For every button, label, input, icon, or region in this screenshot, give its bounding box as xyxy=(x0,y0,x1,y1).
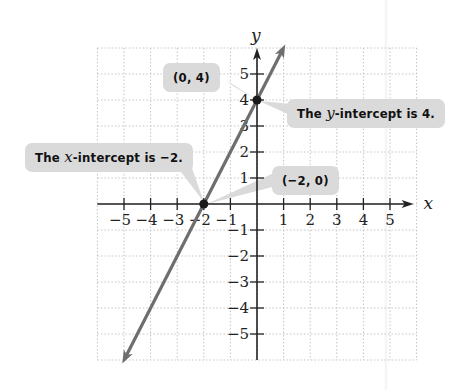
graph-figure: xy−5−4−3−2−11234554321−1−2−3−4−5 (0, 4) … xyxy=(0,0,470,390)
x-axis-label: x xyxy=(424,193,434,213)
y-tick-label: −4 xyxy=(227,299,249,317)
y-intercept-point xyxy=(253,96,262,105)
callout-y-point: (0, 4) xyxy=(163,63,220,92)
x-tick-label: 3 xyxy=(332,211,342,229)
y-tick-label: 5 xyxy=(239,65,249,83)
variable-y: y xyxy=(326,104,335,122)
y-tick-label: −3 xyxy=(227,273,249,291)
y-axis-label: y xyxy=(250,25,261,45)
y-tick-label: 4 xyxy=(239,91,249,109)
x-tick-label: 4 xyxy=(359,211,369,229)
x-tick-label: −4 xyxy=(136,211,158,229)
axes: xy−5−4−3−2−11234554321−1−2−3−4−5 xyxy=(97,25,433,360)
callout-text: The xyxy=(35,150,64,165)
callout-text: The xyxy=(297,106,326,121)
x-tick-label: −3 xyxy=(162,211,184,229)
coordinate-plane: xy−5−4−3−2−11234554321−1−2−3−4−5 xyxy=(0,0,470,390)
callout-x-intercept: The x-intercept is −2. xyxy=(25,143,193,172)
callout-text: (−2, 0) xyxy=(282,173,329,188)
y-tick-label: 1 xyxy=(239,169,249,187)
x-tick-label: 2 xyxy=(305,211,315,229)
callout-pointer xyxy=(178,168,204,202)
callout-x-point: (−2, 0) xyxy=(272,166,339,195)
y-tick-label: −2 xyxy=(227,247,249,265)
y-tick-label: −5 xyxy=(227,325,249,343)
y-tick-label: −1 xyxy=(227,221,249,239)
callout-y-intercept: The y-intercept is 4. xyxy=(287,99,445,128)
y-tick-label: 2 xyxy=(239,143,249,161)
x-intercept-point xyxy=(199,200,208,209)
x-tick-label: 1 xyxy=(279,211,289,229)
variable-x: x xyxy=(64,148,73,166)
callout-text: -intercept is −2. xyxy=(73,150,183,165)
x-tick-label: −5 xyxy=(109,211,131,229)
callout-text: (0, 4) xyxy=(173,70,210,85)
callout-text: -intercept is 4. xyxy=(335,106,435,121)
x-tick-label: 5 xyxy=(385,211,395,229)
